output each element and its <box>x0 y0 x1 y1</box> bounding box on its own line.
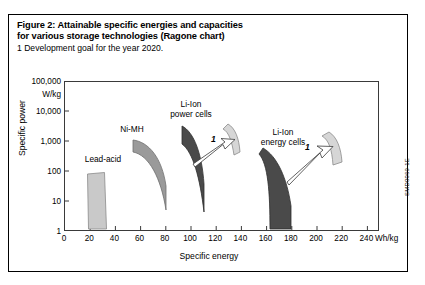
x-tick-120: 120 <box>208 234 222 243</box>
y-axis-unit: W/kg <box>42 90 61 99</box>
x-axis-unit: Wh/kg <box>375 234 398 243</box>
x-axis-title: Specific energy <box>9 251 409 261</box>
region-li-ion-power-cells <box>182 126 204 212</box>
x-tick-200: 200 <box>309 234 323 243</box>
y-axis-title: Specific power <box>17 68 27 188</box>
figure-caption: Figure 2: Attainable specific energies a… <box>17 20 347 54</box>
x-tick-40: 40 <box>110 234 119 243</box>
region-label-ni-mh: Ni-MH <box>111 125 153 135</box>
source-code-label: SMD0069-1E <box>404 158 410 196</box>
x-tick-marks <box>90 226 367 230</box>
goal-marker-power-cells: 1 <box>211 134 216 144</box>
figure-title: Figure 2: Attainable specific energies a… <box>17 20 347 43</box>
y-tick-1000: 1,000 <box>41 137 62 146</box>
region-lead-acid <box>88 173 107 230</box>
x-tick-220: 220 <box>334 234 348 243</box>
x-tick-180: 180 <box>284 234 298 243</box>
goal-marker-energy-cells: 1 <box>305 142 310 152</box>
x-tick-160: 160 <box>259 234 273 243</box>
region-label-li-ion-power-cells: Li-Ion power cells <box>158 100 224 120</box>
x-tick-20: 20 <box>85 234 94 243</box>
y-tick-marks <box>65 111 69 201</box>
y-tick-100: 100 <box>47 167 61 176</box>
y-tick-10000: 10,000 <box>36 107 61 116</box>
y-tick-1: 1 <box>56 227 61 236</box>
y-tick-10: 10 <box>52 197 61 206</box>
region-li-ion-energy-cells <box>259 148 291 229</box>
plot-area: Lead-acid Ni-MH Li-Ion power cells Li-Io… <box>64 81 379 231</box>
goal-arrow-energy-cells <box>287 146 333 185</box>
x-tick-100: 100 <box>183 234 197 243</box>
x-tick-80: 80 <box>160 234 169 243</box>
x-tick-240: 240 <box>360 234 374 243</box>
x-tick-0: 0 <box>62 234 67 243</box>
region-ni-mh <box>133 140 166 210</box>
figure-container: Figure 2: Attainable specific energies a… <box>8 14 408 272</box>
x-tick-140: 140 <box>234 234 248 243</box>
figure-footnote: 1 Development goal for the year 2020. <box>17 43 347 54</box>
y-tick-100000: 100,000 <box>31 77 61 86</box>
x-tick-60: 60 <box>135 234 144 243</box>
region-label-lead-acid: Lead-acid <box>75 155 131 165</box>
